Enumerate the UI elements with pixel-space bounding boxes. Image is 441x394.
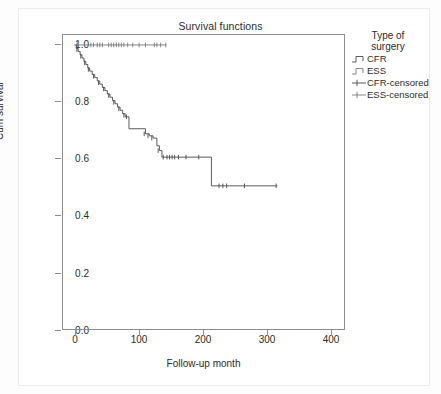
legend-item-ess-censored[interactable]: ESS-censored	[352, 89, 440, 100]
plus-marker-icon	[352, 90, 367, 100]
series-ess	[76, 43, 167, 48]
legend-items: CFRESSCFR-censoredESS-censored	[352, 53, 440, 100]
y-axis-title: Cum survival	[0, 0, 5, 140]
y-tick-mark	[55, 330, 61, 331]
step-line-icon	[352, 66, 367, 76]
legend-title-line1: Type of	[352, 30, 424, 41]
y-tick-mark	[55, 44, 61, 45]
legend-item-label: CFR	[367, 54, 387, 64]
plot-area	[63, 35, 344, 329]
step-line-icon	[352, 54, 367, 64]
x-tick-mark	[331, 330, 332, 336]
survival-curve-cfr	[74, 45, 277, 186]
legend-item-ess[interactable]: ESS	[352, 65, 440, 76]
figure-container: Survival functions Cum survival 1.0 0.8 …	[0, 0, 441, 394]
legend-item-label: ESS	[367, 66, 386, 76]
legend: Type of surgery CFRESSCFR-censoredESS-ce…	[352, 30, 440, 100]
y-tick-mark	[55, 273, 61, 274]
x-axis-title: Follow-up month	[62, 358, 345, 369]
y-tick-mark	[55, 158, 61, 159]
plot-frame	[62, 34, 345, 330]
plus-marker-icon	[352, 78, 367, 88]
y-tick-mark	[55, 215, 61, 216]
legend-item-cfr-censored[interactable]: CFR-censored	[352, 77, 440, 88]
x-tick-mark	[267, 330, 268, 336]
legend-item-label: ESS-censored	[367, 90, 428, 100]
legend-title-line2: surgery	[352, 41, 424, 52]
series-cfr	[74, 45, 277, 188]
x-tick-mark	[75, 330, 76, 336]
legend-item-label: CFR-censored	[367, 78, 429, 88]
legend-item-cfr[interactable]: CFR	[352, 53, 440, 64]
x-tick-mark	[203, 330, 204, 336]
legend-title: Type of surgery	[352, 30, 424, 52]
x-tick-mark	[139, 330, 140, 336]
y-tick-mark	[55, 101, 61, 102]
